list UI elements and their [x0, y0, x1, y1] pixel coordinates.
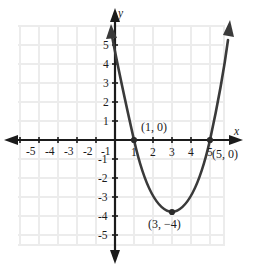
x-tick-label--3: -3: [64, 146, 74, 158]
y-tick-label--3: -3: [98, 192, 108, 204]
annotation-vertex: (3, −4): [148, 218, 181, 230]
y-tick-label--2: -2: [98, 173, 108, 185]
grid-lines: [18, 26, 225, 245]
graph-figure: x y -5 -4 -3 -2 -1 1 2 3 4 5 1 2 3 4 5 -…: [0, 0, 261, 267]
y-tick-label-5: 5: [103, 40, 109, 52]
y-tick-label--5: -5: [98, 230, 108, 242]
point-marker-x-intercept-right: [207, 137, 213, 143]
x-tick-label-2: 2: [150, 147, 156, 159]
y-tick-label-4: 4: [103, 59, 109, 71]
annotation-x-intercept-right: (5, 0): [212, 148, 238, 160]
y-tick-label--4: -4: [98, 211, 108, 223]
point-marker-vertex: [169, 209, 175, 215]
x-tick-label-3: 3: [169, 147, 175, 159]
x-tick-label--2: -2: [83, 146, 93, 158]
y-axis-bottom-arrow: [110, 250, 120, 264]
y-tick-label-3: 3: [103, 78, 109, 90]
y-tick-label-1: 1: [103, 116, 109, 128]
x-axis-label: x: [234, 126, 239, 138]
annotation-x-intercept-left: (1, 0): [141, 121, 167, 133]
x-tick-label--5: -5: [26, 146, 36, 158]
y-tick-label--1: -1: [98, 154, 108, 166]
point-marker-x-intercept-left: [131, 137, 137, 143]
y-tick-label-2: 2: [103, 97, 109, 109]
x-axis-left-arrow: [4, 135, 18, 145]
x-tick-label-4: 4: [188, 147, 194, 159]
coordinate-plane-svg: [0, 0, 261, 267]
x-tick-label-1: 1: [131, 147, 137, 159]
y-axis-label: y: [118, 8, 123, 20]
x-tick-label--4: -4: [45, 146, 55, 158]
